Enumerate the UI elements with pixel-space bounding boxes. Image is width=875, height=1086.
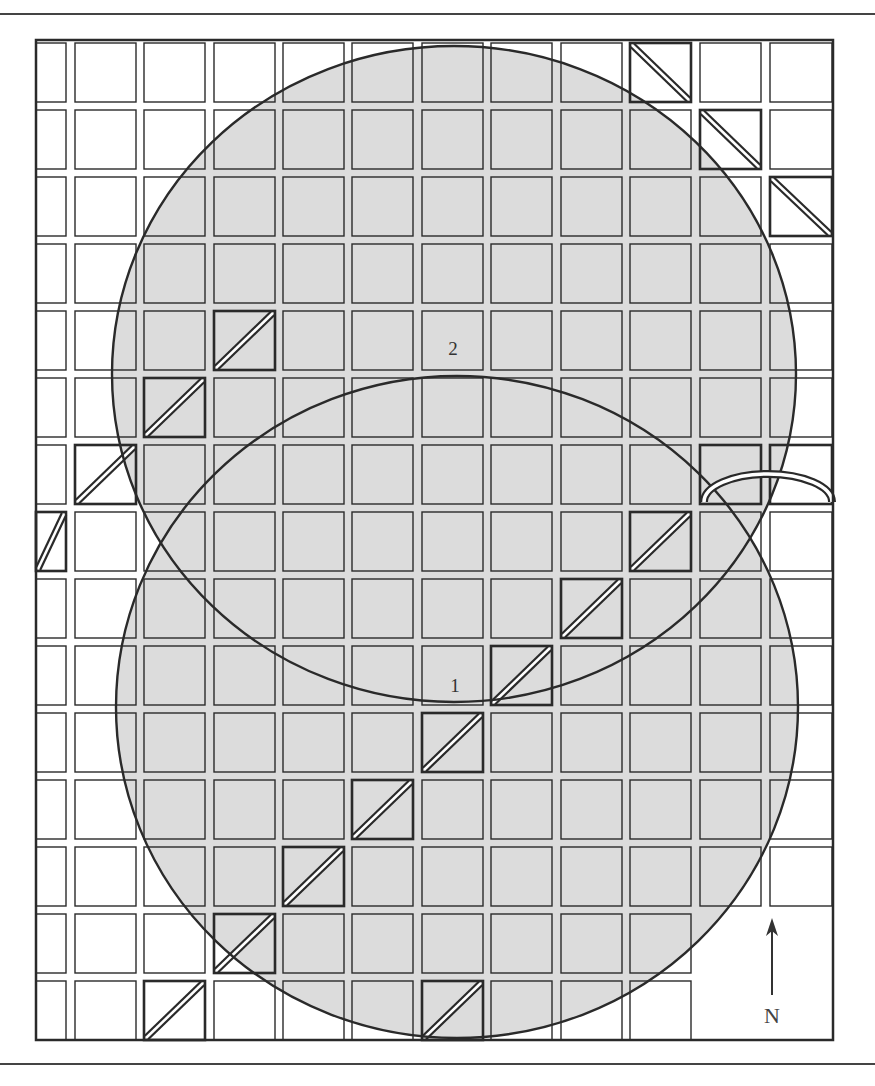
city-block bbox=[36, 110, 66, 169]
city-block bbox=[36, 378, 66, 437]
city-block bbox=[770, 110, 832, 169]
circle-label-2: 2 bbox=[448, 338, 458, 360]
city-block bbox=[36, 713, 66, 772]
city-block bbox=[75, 981, 136, 1040]
city-block bbox=[36, 445, 66, 504]
city-block bbox=[144, 43, 205, 102]
city-block bbox=[75, 847, 136, 906]
city-block bbox=[36, 311, 66, 370]
city-block bbox=[36, 780, 66, 839]
city-block bbox=[75, 43, 136, 102]
city-block bbox=[36, 244, 66, 303]
city-block bbox=[75, 110, 136, 169]
city-block bbox=[36, 646, 66, 705]
city-block bbox=[36, 43, 66, 102]
city-block bbox=[630, 981, 691, 1040]
city-block bbox=[214, 43, 275, 102]
grid-map bbox=[0, 0, 875, 1086]
coverage-areas bbox=[112, 46, 798, 1038]
city-block bbox=[75, 445, 136, 504]
north-arrow-icon bbox=[766, 918, 778, 995]
city-block bbox=[214, 981, 275, 1040]
city-block bbox=[36, 981, 66, 1040]
city-block bbox=[36, 847, 66, 906]
city-block bbox=[630, 43, 691, 102]
city-block bbox=[75, 177, 136, 236]
city-block bbox=[700, 43, 761, 102]
city-block bbox=[770, 847, 832, 906]
city-block bbox=[144, 981, 205, 1040]
city-block bbox=[36, 579, 66, 638]
north-label: N bbox=[764, 1003, 780, 1029]
city-block bbox=[770, 512, 832, 571]
city-block bbox=[36, 512, 66, 571]
circle-label-1: 1 bbox=[450, 675, 460, 697]
city-block bbox=[36, 914, 66, 973]
city-block bbox=[75, 914, 136, 973]
city-block bbox=[75, 512, 136, 571]
city-block bbox=[770, 177, 832, 236]
city-block bbox=[144, 914, 205, 973]
city-block bbox=[36, 177, 66, 236]
city-block bbox=[770, 43, 832, 102]
